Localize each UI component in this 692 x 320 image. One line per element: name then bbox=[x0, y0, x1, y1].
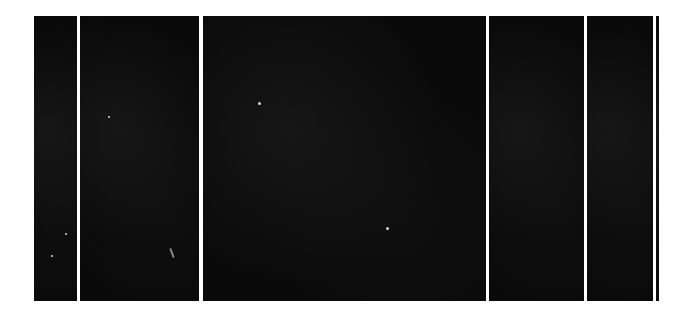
dust-speck bbox=[258, 102, 261, 105]
black-panel-5 bbox=[587, 16, 653, 301]
black-panel-4 bbox=[489, 16, 584, 301]
dust-speck bbox=[108, 116, 110, 118]
black-panel-2 bbox=[80, 16, 199, 301]
dust-speck bbox=[386, 227, 389, 230]
dust-speck bbox=[51, 255, 53, 257]
black-panel-1 bbox=[34, 16, 77, 301]
black-panel-6 bbox=[656, 16, 659, 301]
black-panel-3 bbox=[203, 16, 486, 301]
dust-speck bbox=[65, 233, 67, 235]
